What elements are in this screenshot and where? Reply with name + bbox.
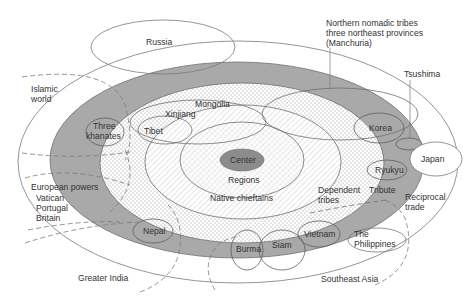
label-reciprocal-1: Reciprocal — [405, 192, 446, 202]
label-three-khanates-2: khanates — [86, 131, 121, 141]
label-southeast-asia: Southeast Asia — [321, 274, 379, 284]
label-philippines-2: Philippines — [354, 239, 396, 249]
label-three-khanates-1: Three — [93, 121, 116, 131]
label-xinjiang: Xinjiang — [165, 109, 196, 119]
tributary-system-diagram: Russia Islamic world Northern nomadic tr… — [0, 0, 471, 306]
label-native-chieftains: Native chieftains — [210, 193, 273, 203]
diagram-canvas: Russia Islamic world Northern nomadic tr… — [0, 0, 471, 306]
label-tsushima: Tsushima — [404, 69, 441, 79]
label-reciprocal-2: trade — [405, 202, 425, 212]
label-northern-2: three northeast provinces — [326, 28, 423, 38]
label-britain: Britain — [36, 213, 61, 223]
label-islamic-world-2: world — [30, 94, 52, 104]
label-northern-3: (Manchuria) — [326, 38, 372, 48]
label-regions: Regions — [228, 175, 260, 185]
label-dependent-tribes-1: Dependent — [318, 185, 361, 195]
label-northern-1: Northern nomadic tribes — [326, 18, 418, 28]
label-korea: Korea — [369, 123, 392, 133]
label-dependent-tribes-2: tribes — [318, 195, 339, 205]
label-siam: Siam — [272, 240, 292, 250]
label-center: Center — [230, 155, 256, 165]
label-tribute: Tribute — [369, 185, 396, 195]
label-portugal: Portugal — [36, 203, 68, 213]
label-nepal: Nepal — [143, 226, 166, 236]
label-mongolia: Mongolia — [195, 99, 230, 109]
label-japan: Japan — [421, 154, 445, 164]
label-burma: Burma — [236, 244, 262, 254]
label-ryukyu: Ryukyu — [375, 165, 404, 175]
label-vietnam: Vietnam — [304, 229, 335, 239]
label-greater-india: Greater India — [78, 273, 128, 283]
label-philippines-1: The — [354, 229, 369, 239]
label-vatican: Vatican — [36, 193, 64, 203]
label-islamic-world-1: Islamic — [31, 84, 58, 94]
label-russia: Russia — [146, 37, 172, 47]
label-european-powers: European powers — [31, 182, 98, 192]
label-tibet: Tibet — [144, 126, 163, 136]
